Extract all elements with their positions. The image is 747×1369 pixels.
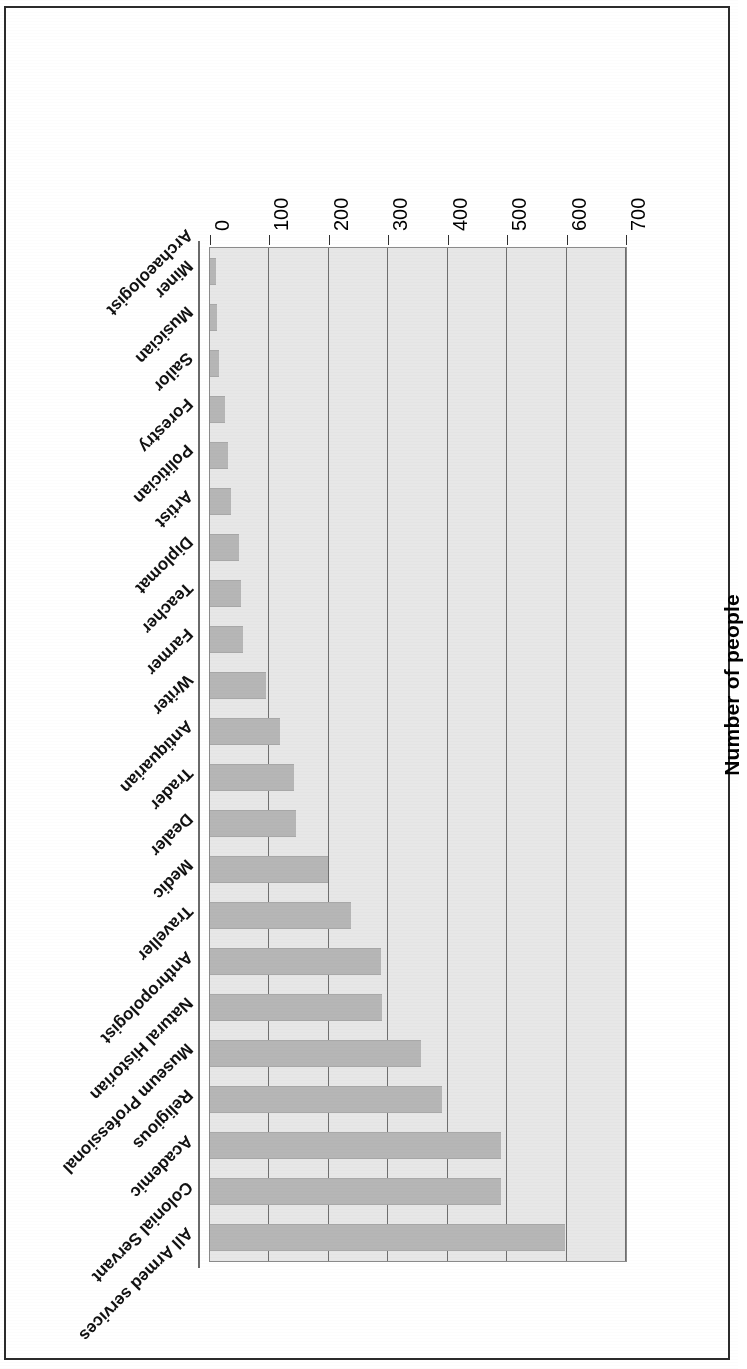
figure-container: Number of people All Armed servicesColon… [20,40,720,1330]
bar [210,856,328,883]
value-tick-label: 300 [389,171,412,231]
bar [210,396,225,423]
plot-area [209,247,627,1262]
category-label: Writer [149,672,196,719]
bar [210,1178,501,1205]
value-axis-title: Number of people [712,40,747,1330]
bar [210,902,351,929]
gridline [447,248,448,1261]
value-tick-label: 700 [627,171,650,231]
bar [210,764,294,791]
category-label: Sailor [151,350,196,395]
tick-mark [448,235,449,245]
value-tick-label: 0 [211,171,234,231]
bar [210,534,239,561]
tick-mark [269,235,270,245]
category-axis-line [198,241,200,1268]
tick-mark [626,235,627,245]
bar [210,810,296,837]
category-label: Medic [150,856,196,902]
value-tick-label: 500 [508,171,531,231]
gridline [566,248,567,1261]
bar [210,1086,442,1113]
bar [210,580,241,607]
bar [210,1132,501,1159]
tick-mark [567,235,568,245]
gridline [625,248,626,1261]
bar-chart: Number of people All Armed servicesColon… [20,40,720,1330]
value-tick-label: 400 [449,171,472,231]
category-label: Artist [153,488,196,531]
bar [210,948,381,975]
gridline [506,248,507,1261]
tick-mark [210,235,211,245]
tick-mark [507,235,508,245]
bar [210,718,280,745]
bar [210,442,228,469]
tick-mark [329,235,330,245]
value-tick-label: 200 [330,171,353,231]
bar [210,672,266,699]
bar [210,488,231,515]
value-tick-label: 100 [270,171,293,231]
category-label: Dealer [147,810,196,859]
bar [210,994,382,1021]
bar [210,1224,565,1251]
category-axis-tick-labels: All Armed servicesColonial ServantAcadem… [20,40,196,1330]
value-tick-label: 600 [568,171,591,231]
bar [210,258,216,285]
bar [210,626,243,653]
bar [210,1040,421,1067]
value-axis-tick-labels [634,40,684,1330]
tick-mark [388,235,389,245]
bar [210,350,219,377]
bar [210,304,217,331]
